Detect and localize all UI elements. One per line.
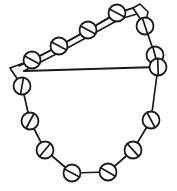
bead-chain-figure [0,0,177,191]
bead-right-chord [150,59,167,76]
bead-rail-2 [80,22,97,39]
bead-right-lower [125,142,142,159]
bead-left-mid [22,113,39,130]
bead-upper-right [137,18,154,35]
figure-canvas [0,0,177,191]
bead-right-mid [143,112,160,129]
bead-right-chord-slash [158,59,159,76]
bead-bottom-left [64,165,81,182]
bead-bottom-right [100,164,117,181]
bead-left-upper [14,78,31,95]
bead-top-apex [109,5,126,22]
bead-left-lower [37,142,54,159]
bead-left-rail-end [24,52,41,69]
bead-rail-1 [51,38,68,55]
